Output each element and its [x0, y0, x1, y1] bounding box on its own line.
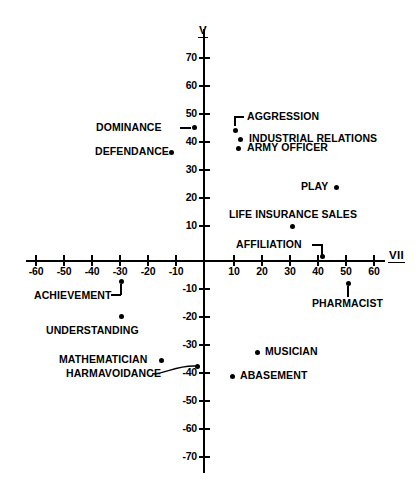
y-tick-minus40: [199, 372, 210, 374]
data-label-affiliation: AFFILIATION: [236, 238, 302, 250]
y-tick-label-60: 60: [163, 79, 197, 91]
y-tick-70: [199, 57, 210, 59]
y-tick-label-50: 50: [163, 107, 197, 119]
y-tick-20: [199, 197, 210, 199]
data-label-aggression: AGGRESSION: [247, 110, 319, 122]
data-label-musician: MUSICIAN: [265, 345, 318, 357]
y-tick-label-10: 10: [163, 219, 197, 231]
y-tick-label-20: 20: [163, 191, 197, 203]
y-tick-10: [199, 225, 210, 227]
data-point-industrial-relations[interactable]: [238, 137, 243, 142]
data-point-defendance[interactable]: [169, 150, 174, 155]
y-tick-60: [199, 85, 210, 87]
y-tick-label-minus20: -20: [163, 310, 197, 322]
y-tick-label-minus70: -70: [163, 450, 197, 462]
scatter-plot-figure: V VII -60 -50 -40 -30 -20 -10 10 20 30 4…: [0, 0, 420, 493]
leader-line-aggression-horizontal: [234, 116, 244, 118]
data-label-dominance: DOMINANCE: [96, 121, 162, 133]
y-tick-label-minus10: -10: [163, 282, 197, 294]
y-axis-title: V: [198, 24, 208, 38]
data-point-dominance[interactable]: [192, 125, 197, 130]
y-tick-label-minus50: -50: [163, 394, 197, 406]
leader-line-achievement-horizontal: [111, 294, 121, 296]
y-tick-minus30: [199, 344, 210, 346]
data-label-mathematician: MATHEMATICIAN: [59, 353, 147, 365]
x-axis-title: VII: [388, 249, 405, 263]
x-axis-line: [26, 260, 385, 262]
data-point-play[interactable]: [334, 185, 339, 190]
leader-line-pharmacist: [347, 286, 349, 297]
y-tick-label-70: 70: [163, 51, 197, 63]
y-tick-40: [199, 141, 210, 143]
y-tick-minus50: [199, 400, 210, 402]
data-label-understanding: UNDERSTANDING: [46, 324, 139, 336]
y-tick-50: [199, 113, 210, 115]
y-tick-label-minus60: -60: [163, 422, 197, 434]
y-tick-label-minus30: -30: [163, 338, 197, 350]
data-label-defendance: DEFENDANCE: [95, 145, 169, 157]
data-point-army-officer[interactable]: [236, 146, 241, 151]
data-point-life-insurance-sales[interactable]: [290, 224, 295, 229]
y-tick-minus60: [199, 428, 210, 430]
data-label-harmavoidance: HARMAVOIDANCE: [66, 367, 161, 379]
leader-line-affiliation-horizontal: [312, 244, 322, 246]
data-label-pharmacist: PHARMACIST: [312, 297, 383, 309]
x-tick-label-minus10: -10: [159, 265, 193, 277]
data-label-abasement: ABASEMENT: [240, 369, 307, 381]
data-point-abasement[interactable]: [230, 374, 235, 379]
leader-line-dominance: [180, 127, 191, 129]
x-tick-label-60: 60: [357, 265, 391, 277]
data-point-musician[interactable]: [255, 350, 260, 355]
y-axis-line: [203, 29, 205, 473]
data-point-understanding[interactable]: [119, 314, 124, 319]
leader-line-aggression-vertical: [234, 116, 236, 126]
data-label-play: PLAY: [301, 180, 328, 192]
y-tick-minus20: [199, 316, 210, 318]
data-point-aggression[interactable]: [233, 128, 238, 133]
data-label-achievement: ACHIEVEMENT: [34, 289, 112, 301]
y-tick-minus70: [199, 456, 210, 458]
y-tick-label-30: 30: [163, 163, 197, 175]
data-label-army-officer: ARMY OFFICER: [247, 141, 328, 153]
y-tick-30: [199, 169, 210, 171]
data-label-life-insurance-sales: LIFE INSURANCE SALES: [229, 208, 357, 220]
leader-line-affiliation-vertical: [321, 244, 323, 255]
y-tick-minus10: [199, 288, 210, 290]
